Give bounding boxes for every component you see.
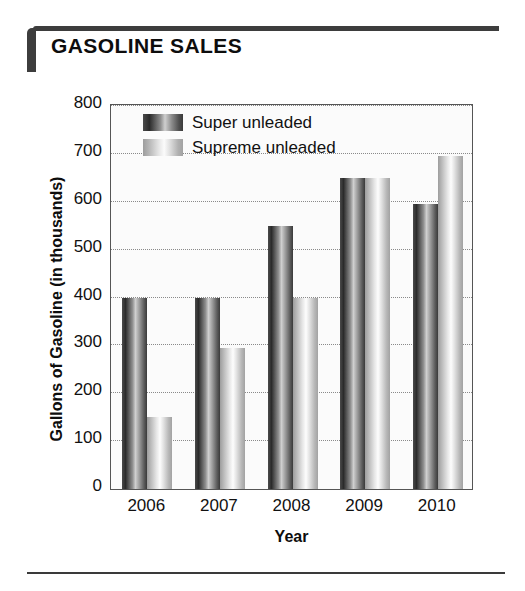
x-axis-tick-label: 2006 <box>111 496 181 516</box>
bottom-rule <box>27 572 505 574</box>
x-axis-tick-label: 2010 <box>402 496 472 516</box>
bar-2006-supreme-unleaded <box>147 417 172 489</box>
legend-label-super-unleaded: Super unleaded <box>192 113 312 133</box>
y-axis-tick-label: 200 <box>46 380 102 400</box>
bar-2008-super-unleaded <box>268 226 293 489</box>
bar-2007-supreme-unleaded <box>220 348 245 489</box>
x-axis-tick-label: 2008 <box>257 496 327 516</box>
plot-inner <box>111 105 472 489</box>
y-axis-tick-label: 500 <box>46 237 102 257</box>
y-axis-tick-label: 100 <box>46 428 102 448</box>
bar-2006-super-unleaded <box>122 298 147 490</box>
y-axis-tick-label: 600 <box>46 189 102 209</box>
y-axis-tick-label: 400 <box>46 285 102 305</box>
legend-swatch-icon-super-unleaded <box>143 114 183 131</box>
y-axis-tick-label: 0 <box>46 476 102 496</box>
chart: Gallons of Gasoline (in thousands) 80070… <box>0 0 525 591</box>
legend: Super unleaded Supreme unleaded <box>143 111 336 161</box>
bar-2009-supreme-unleaded <box>365 178 390 489</box>
bar-2010-super-unleaded <box>413 204 438 489</box>
y-axis-tick-label: 700 <box>46 141 102 161</box>
y-axis-tick-label: 800 <box>46 93 102 113</box>
bar-2007-super-unleaded <box>195 298 220 490</box>
legend-swatch-icon-supreme-unleaded <box>143 139 183 156</box>
y-axis-tick-label: 300 <box>46 332 102 352</box>
bar-2009-super-unleaded <box>340 178 365 489</box>
plot-area <box>110 104 473 490</box>
x-axis-tick-label: 2007 <box>184 496 254 516</box>
x-axis-title: Year <box>110 528 473 546</box>
bar-2010-supreme-unleaded <box>438 156 463 489</box>
legend-label-supreme-unleaded: Supreme unleaded <box>192 138 336 158</box>
x-axis-tick-label: 2009 <box>329 496 399 516</box>
legend-item-super-unleaded: Super unleaded <box>143 111 336 134</box>
gridline <box>111 201 472 202</box>
gridline <box>111 105 472 106</box>
legend-item-supreme-unleaded: Supreme unleaded <box>143 136 336 159</box>
y-axis-title: Gallons of Gasoline (in thousands) <box>48 109 66 509</box>
bar-2008-supreme-unleaded <box>293 298 318 490</box>
